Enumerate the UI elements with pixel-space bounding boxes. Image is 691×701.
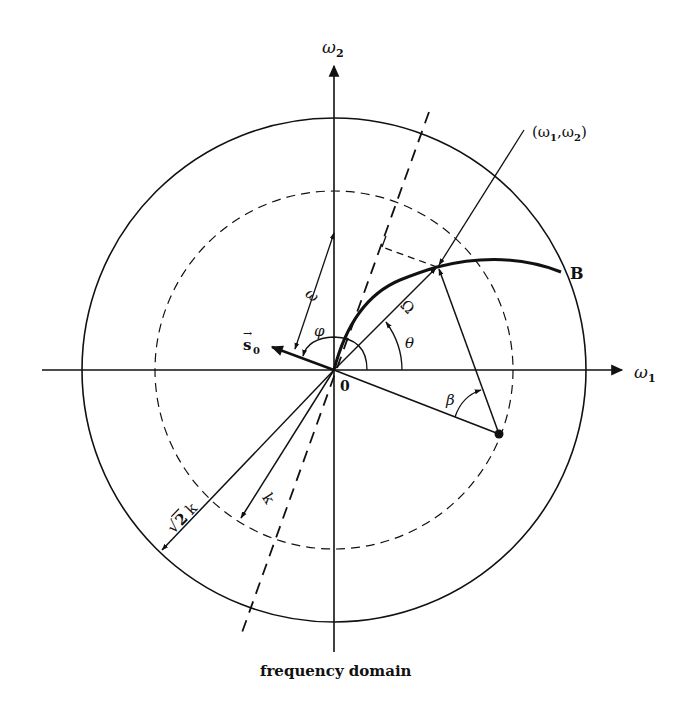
Omega-vector xyxy=(336,268,436,368)
curve-end-label-B: B xyxy=(570,264,584,283)
k-label: k xyxy=(258,490,279,508)
omega2-axis-label: ω2 xyxy=(322,37,344,60)
k-vector xyxy=(241,370,334,518)
beta-to-point-vector xyxy=(439,269,499,434)
origin-to-beta-line xyxy=(334,370,499,434)
phi-label: φ xyxy=(314,322,325,340)
origin-label: 0 xyxy=(340,378,350,394)
sqrt2k-label: √ 2 k xyxy=(163,498,202,537)
omega1-axis-label: ω1 xyxy=(634,362,656,385)
perpendicular-dashed xyxy=(382,247,437,267)
s0-label: s 0 → xyxy=(243,327,260,356)
beta-label: β xyxy=(445,391,455,409)
svg-text:→: → xyxy=(243,327,252,340)
point-coordinates-label: (ω1,ω2) xyxy=(532,123,587,143)
perpendicular-tick xyxy=(382,236,386,247)
Omega-label: Ω xyxy=(397,296,419,318)
frequency-domain-diagram: ω2 ω1 (ω1,ω2) B 0 Ω θ φ β ω s 0 → k √ 2 … xyxy=(0,0,691,701)
bold-curve-to-B xyxy=(334,260,561,370)
figure-caption: frequency domain xyxy=(260,662,412,680)
omega-length-label: ω xyxy=(302,284,322,306)
theta-arc xyxy=(386,322,402,370)
beta-point xyxy=(495,430,504,439)
beta-arc xyxy=(455,390,481,417)
svg-text:0: 0 xyxy=(253,345,260,356)
theta-label: θ xyxy=(405,334,414,352)
s0-vector xyxy=(272,347,334,370)
point-leader-line xyxy=(439,130,524,265)
